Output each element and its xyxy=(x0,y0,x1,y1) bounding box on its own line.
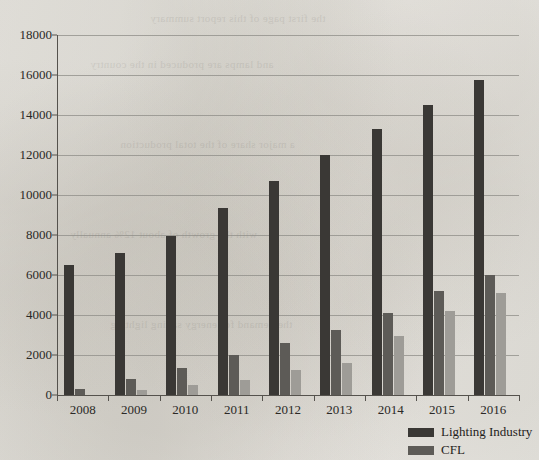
y-tick-label: 16000 xyxy=(20,67,53,83)
bar-2016-series-1 xyxy=(485,275,495,395)
bar-2015-series-0 xyxy=(423,105,433,395)
bar-group-2012 xyxy=(262,35,313,395)
x-tick-mark xyxy=(57,395,58,401)
bar-2012-series-2 xyxy=(291,370,301,395)
bar-group-2016 xyxy=(468,35,519,395)
bar-2008-series-0 xyxy=(64,265,74,395)
x-tick-label-2010: 2010 xyxy=(172,402,198,418)
y-tick-label: 18000 xyxy=(20,27,53,43)
y-tick-label: 6000 xyxy=(26,267,52,283)
bar-2013-series-1 xyxy=(331,330,341,395)
legend-swatch-icon xyxy=(408,446,434,455)
legend-swatch-icon xyxy=(408,428,434,437)
bar-2015-series-1 xyxy=(434,291,444,395)
x-tick-mark xyxy=(160,395,161,401)
x-tick-label-2009: 2009 xyxy=(121,402,147,418)
x-tick-mark xyxy=(365,395,366,401)
bar-2011-series-2 xyxy=(240,380,250,395)
bar-group-2011 xyxy=(211,35,262,395)
x-tick-mark xyxy=(519,395,520,401)
bar-group-2014 xyxy=(365,35,416,395)
y-tick-label: 8000 xyxy=(26,227,52,243)
bar-2009-series-0 xyxy=(115,253,125,395)
y-axis-line xyxy=(57,35,58,396)
x-tick-mark xyxy=(108,395,109,401)
bar-group-2009 xyxy=(108,35,159,395)
x-tick-label-2012: 2012 xyxy=(275,402,301,418)
legend-label: CFL xyxy=(441,442,465,458)
x-axis-tick-labels: 200820092010201120122013201420152016 xyxy=(57,402,519,422)
legend-item-cfl: CFL xyxy=(408,442,532,458)
x-tick-label-2016: 2016 xyxy=(480,402,506,418)
x-tick-mark xyxy=(211,395,212,401)
x-tick-label-2014: 2014 xyxy=(378,402,404,418)
bar-2009-series-1 xyxy=(126,379,136,395)
bar-2012-series-0 xyxy=(269,181,279,395)
x-tick-mark xyxy=(262,395,263,401)
bar-2016-series-0 xyxy=(474,80,484,395)
x-tick-label-2011: 2011 xyxy=(224,402,250,418)
bar-2014-series-1 xyxy=(383,313,393,395)
bar-2010-series-2 xyxy=(188,385,198,395)
bar-group-2013 xyxy=(314,35,365,395)
x-tick-label-2015: 2015 xyxy=(429,402,455,418)
y-tick-label: 10000 xyxy=(20,187,53,203)
x-tick-label-2008: 2008 xyxy=(70,402,96,418)
bar-2012-series-1 xyxy=(280,343,290,395)
x-tick-mark xyxy=(468,395,469,401)
y-tick-label: 14000 xyxy=(20,107,53,123)
y-tick-label: 4000 xyxy=(26,307,52,323)
bar-group-2010 xyxy=(160,35,211,395)
bars-layer xyxy=(57,35,519,395)
bar-2014-series-0 xyxy=(372,129,382,395)
y-tick-label: 12000 xyxy=(20,147,53,163)
legend-label: Lighting Industry xyxy=(441,424,532,440)
bar-2016-series-2 xyxy=(496,293,506,395)
x-tick-mark xyxy=(416,395,417,401)
y-tick-label: 2000 xyxy=(26,347,52,363)
bar-2011-series-0 xyxy=(218,208,228,395)
x-tick-label-2013: 2013 xyxy=(326,402,352,418)
bar-2013-series-2 xyxy=(342,363,352,395)
bar-2014-series-2 xyxy=(394,336,404,395)
chart-legend: Lighting Industry CFL xyxy=(408,424,532,460)
bar-2010-series-1 xyxy=(177,368,187,395)
bar-2010-series-0 xyxy=(166,236,176,395)
legend-item-lighting-industry: Lighting Industry xyxy=(408,424,532,440)
bar-group-2015 xyxy=(416,35,467,395)
x-tick-mark xyxy=(314,395,315,401)
bar-chart: 0200040006000800010000120001400016000180… xyxy=(0,0,539,460)
bar-2015-series-2 xyxy=(445,311,455,395)
bar-group-2008 xyxy=(57,35,108,395)
bar-2013-series-0 xyxy=(320,155,330,395)
bar-2011-series-1 xyxy=(229,355,239,395)
y-axis-tick-labels: 0200040006000800010000120001400016000180… xyxy=(0,35,52,395)
